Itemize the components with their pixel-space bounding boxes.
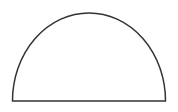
semicircle-diagram (0, 0, 178, 112)
semicircle-shape (13, 13, 166, 101)
